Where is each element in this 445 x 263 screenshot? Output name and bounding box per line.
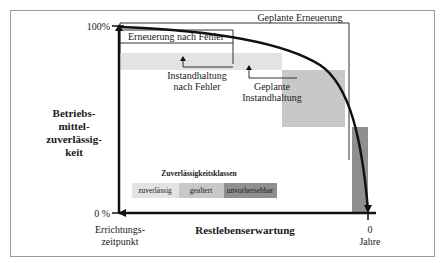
x-axis-title: Restlebenserwartung: [195, 224, 295, 236]
y-axis-title-line4: keit: [65, 146, 83, 158]
y-axis-title-line3: zuverlässig-: [46, 133, 102, 145]
label-planned-maintenance-line2: Instandhaltung: [242, 92, 301, 103]
label-planned-maintenance: Geplante: [254, 81, 291, 92]
zone-unpredictable: [352, 127, 368, 213]
legend-title: Zuverlässigkeitsklassen: [161, 169, 237, 178]
x-right-label-line2: Jahre: [359, 236, 381, 247]
label-maintenance-after-failure-line2: nach Fehler: [174, 81, 222, 92]
y-tick-0-label: 0 %: [94, 208, 110, 219]
x-right-label-line1: 0: [368, 224, 373, 235]
y-tick-100-label: 100%: [87, 21, 110, 32]
label-maintenance-after-failure: Instandhaltung: [167, 70, 226, 81]
legend-item-aged: gealtert: [190, 186, 213, 195]
label-renewal-after-failure: Erneuerung nach Fehler: [128, 31, 225, 42]
label-planned-renewal: Geplante Erneuerung: [257, 12, 342, 23]
x-left-label-line1: Errichtungs-: [95, 224, 145, 235]
y-axis-title-line1: Betriebs-: [53, 107, 96, 119]
x-left-label-line2: zeitpunkt: [101, 236, 138, 247]
diagram-canvas: Erneuerung nach Fehler Geplante Erneueru…: [0, 0, 445, 263]
legend-item-unpredictable: unvorhersehbar: [227, 186, 274, 195]
y-axis-title-line2: mittel-: [58, 120, 89, 132]
legend-item-reliable: zuverlässig: [138, 186, 172, 195]
